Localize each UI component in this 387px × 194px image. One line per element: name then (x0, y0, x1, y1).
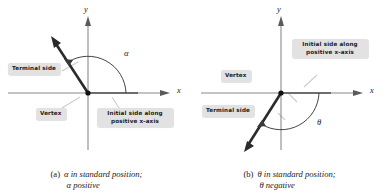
x-axis-label: x (177, 86, 181, 95)
callout-vertex-text: Vertex (225, 72, 247, 78)
callout-terminal-side: Terminal side (202, 105, 254, 117)
callout-initial-side-line1: Initial side along (107, 110, 162, 116)
caption-b-line2: θ negative (259, 180, 294, 190)
caption-b-line1: θ in standard position; (257, 169, 335, 179)
callout-initial-side: Initial side along positive x-axis (97, 108, 173, 127)
angle-symbol-theta: θ (317, 117, 321, 127)
diagram-alpha (0, 0, 193, 162)
caption-a-line2: α positive (67, 180, 100, 190)
caption-a-label: (a) (51, 169, 61, 179)
callout-initial-side: Initial side along positive x-axis (292, 39, 368, 58)
callout-terminal-side: Terminal side (8, 63, 60, 75)
y-axis-label: y (84, 5, 88, 14)
caption-a: (a)α in standard position; α positive (0, 169, 193, 190)
angle-arc-alpha (64, 56, 126, 93)
panel-alpha-standard-position: x y α Terminal side Vertex Initial side … (0, 0, 193, 194)
angle-arc-theta (257, 93, 319, 130)
callout-initial-side-line2: positive x-axis (306, 49, 354, 55)
callout-initial-side-line2: positive x-axis (111, 118, 159, 124)
callout-initial-side-line1: Initial side along (302, 41, 357, 47)
y-axis (85, 16, 91, 150)
caption-a-line1: α in standard position; (64, 169, 142, 179)
callout-terminal-side-text: Terminal side (206, 107, 250, 113)
x-axis-label: x (370, 86, 374, 95)
vertex-point (278, 90, 283, 95)
callout-vertex: Vertex (36, 108, 66, 120)
angle-symbol-alpha: α (124, 48, 129, 58)
callout-vertex: Vertex (221, 70, 251, 82)
y-axis-label: y (277, 5, 281, 14)
caption-b: (b)θ in standard position; θ negative (193, 169, 386, 190)
leader-lines (62, 62, 119, 108)
caption-b-label: (b) (243, 169, 253, 179)
panel-theta-standard-position: x y θ Initial side along positive x-axis… (193, 0, 386, 194)
callout-vertex-text: Vertex (40, 110, 62, 116)
angle-standard-position-figure: x y α Terminal side Vertex Initial side … (0, 0, 387, 194)
callout-terminal-side-text: Terminal side (12, 65, 56, 71)
vertex-point (85, 90, 90, 95)
leader-lines (278, 75, 317, 120)
